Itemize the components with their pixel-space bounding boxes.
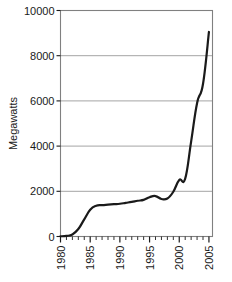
y-tick-label: 8000 — [30, 50, 54, 62]
y-tick-label: 2000 — [30, 185, 54, 197]
x-tick-label: 2000 — [173, 246, 185, 270]
y-axis-label: Megawatts — [7, 96, 19, 150]
plot-area-background — [61, 11, 213, 237]
x-tick-label: 1990 — [114, 246, 126, 270]
y-tick-label: 6000 — [30, 95, 54, 107]
x-tick-label: 1995 — [144, 246, 156, 270]
line-chart: 0200040006000800010000 19801985199019952… — [0, 0, 232, 282]
y-tick-label: 0 — [48, 231, 54, 243]
x-tick-label: 1980 — [55, 246, 67, 270]
x-tick-label: 1985 — [84, 246, 96, 270]
x-tick-label: 2005 — [203, 246, 215, 270]
y-tick-label: 10000 — [24, 5, 55, 17]
chart-figure: 0200040006000800010000 19801985199019952… — [0, 0, 232, 282]
y-tick-label: 4000 — [30, 140, 54, 152]
